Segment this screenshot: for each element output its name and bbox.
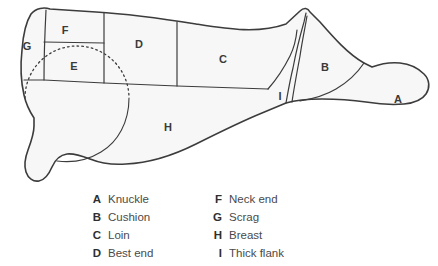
region-label-e: E: [70, 60, 77, 72]
legend-name-h: Breast: [229, 226, 262, 244]
legend-name-i: Thick flank: [229, 244, 284, 262]
legend-column-left: A Knuckle B Cushion C Loin D Best end: [86, 190, 153, 262]
legend-key-b: B: [86, 208, 101, 226]
legend-key-i: I: [207, 244, 222, 262]
legend-name-d: Best end: [108, 244, 153, 262]
legend-key-h: H: [207, 226, 222, 244]
legend-item-c: C Loin: [86, 226, 153, 244]
carcass-outline-group: [21, 8, 429, 181]
legend-item-i: I Thick flank: [207, 244, 284, 262]
region-label-f: F: [62, 24, 69, 36]
legend-key-g: G: [207, 208, 222, 226]
legend-item-d: D Best end: [86, 244, 153, 262]
legend-item-a: A Knuckle: [86, 190, 153, 208]
legend-key-d: D: [86, 244, 101, 262]
region-label-a: A: [394, 93, 402, 105]
cuts-diagram-page: G F E D C B A H I A Knuckle B Cushion C …: [0, 0, 438, 266]
legend-key-a: A: [86, 190, 101, 208]
legend-item-g: G Scrag: [207, 208, 284, 226]
legend-key-c: C: [86, 226, 101, 244]
legend-item-h: H Breast: [207, 226, 284, 244]
region-label-d: D: [135, 38, 143, 50]
legend-key-f: F: [207, 190, 222, 208]
carcass-diagram: G F E D C B A H I: [0, 0, 438, 190]
legend-item-b: B Cushion: [86, 208, 153, 226]
legend-name-f: Neck end: [229, 190, 278, 208]
region-label-g: G: [23, 40, 32, 52]
legend-name-b: Cushion: [108, 208, 150, 226]
region-label-c: C: [219, 53, 227, 65]
region-label-i: I: [278, 90, 281, 102]
legend: A Knuckle B Cushion C Loin D Best end F …: [0, 190, 438, 266]
region-label-b: B: [321, 61, 329, 73]
region-label-h: H: [164, 121, 172, 133]
legend-name-g: Scrag: [229, 208, 259, 226]
legend-name-c: Loin: [108, 226, 130, 244]
legend-item-f: F Neck end: [207, 190, 284, 208]
legend-column-right: F Neck end G Scrag H Breast I Thick flan…: [207, 190, 284, 262]
legend-name-a: Knuckle: [108, 190, 149, 208]
carcass-body-shape: [21, 8, 429, 181]
